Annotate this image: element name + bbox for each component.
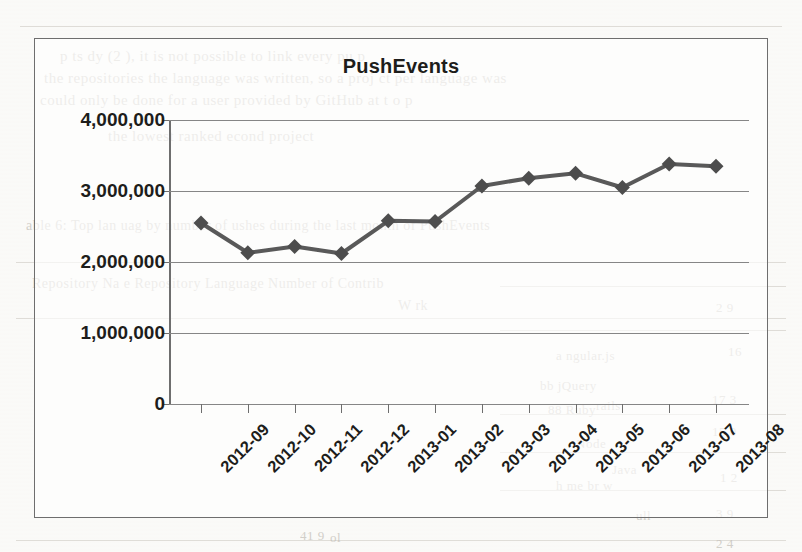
x-axis-label: 2012-10 [264,420,320,476]
x-axis-tick [622,404,623,413]
x-axis-tick [529,404,530,413]
bleed-text: 41 9 [300,528,325,544]
bleed-text: ol [330,530,341,546]
scanned-page-background: p ts dy (2 ), it is not possible to link… [0,0,802,552]
gridline [169,404,749,405]
x-axis-tick [669,404,670,413]
x-axis-label: 2013-01 [404,420,460,476]
y-axis-label: 2,000,000 [0,251,165,273]
x-axis-tick [248,404,249,413]
data-point-marker [709,159,724,174]
bleed-text: 2 4 [716,536,734,552]
data-point-marker [287,239,302,254]
y-axis-label: 3,000,000 [0,180,165,202]
x-axis-tick [341,404,342,413]
x-axis-label: 2013-05 [591,420,647,476]
x-axis-tick [482,404,483,413]
x-axis-tick [388,404,389,413]
data-point-marker [662,157,677,172]
data-point-marker [615,180,630,195]
x-axis-tick [295,404,296,413]
data-point-marker [568,166,583,181]
x-axis-tick [576,404,577,413]
plot-area: 01,000,0002,000,0003,000,0004,000,000 20… [169,120,749,404]
x-axis-label: 2013-08 [732,420,788,476]
x-axis-label: 2013-06 [638,420,694,476]
y-axis-label: 0 [0,393,165,415]
series-line [201,164,716,254]
data-point-marker [521,171,536,186]
series-pushevents [169,120,749,404]
x-axis-label: 2013-04 [544,420,600,476]
x-axis-tick [201,404,202,413]
x-axis-tick [435,404,436,413]
x-axis-label: 2013-07 [685,420,741,476]
x-axis-label: 2012-09 [217,420,273,476]
x-axis-label: 2013-03 [498,420,554,476]
chart-frame: PushEvents 01,000,0002,000,0003,000,0004… [34,38,768,518]
x-axis-tick [716,404,717,413]
bleed-rule [20,26,782,27]
y-axis-label: 4,000,000 [0,109,165,131]
x-axis-label: 2013-02 [451,420,507,476]
y-axis-label: 1,000,000 [0,322,165,344]
x-axis-label: 2012-12 [357,420,413,476]
chart-title: PushEvents [35,55,767,78]
x-axis-label: 2012-11 [310,420,366,476]
bleed-rule [16,540,786,541]
